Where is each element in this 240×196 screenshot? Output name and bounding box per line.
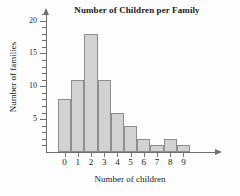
y-axis-minor-tick xyxy=(42,145,46,146)
y-axis-minor-tick xyxy=(42,80,46,81)
y-axis-minor-tick xyxy=(42,93,46,94)
histogram-bar xyxy=(137,139,150,152)
histogram-figure: Number of Children per Family 5101520 01… xyxy=(0,0,240,196)
histogram-bar xyxy=(150,145,163,152)
y-axis-minor-tick xyxy=(42,34,46,35)
plot-area: 5101520 0123456789 xyxy=(46,14,218,153)
y-axis-minor-tick xyxy=(42,27,46,28)
y-axis-minor-tick xyxy=(42,67,46,68)
y-axis-tick-label: 10 xyxy=(29,80,37,91)
y-axis-major-tick: 20 xyxy=(40,21,46,22)
y-axis-tick-label: 5 xyxy=(33,113,37,124)
y-axis-minor-tick xyxy=(42,106,46,107)
y-axis-minor-tick xyxy=(42,126,46,127)
y-axis-minor-tick xyxy=(42,132,46,133)
x-axis-tick-label: 9 xyxy=(175,157,191,167)
x-axis-arrow-icon xyxy=(215,149,222,155)
histogram-bar xyxy=(84,34,97,152)
y-axis-minor-tick xyxy=(42,99,46,100)
histogram-bar xyxy=(124,126,137,152)
y-axis-minor-tick xyxy=(42,47,46,48)
y-axis-minor-tick xyxy=(42,73,46,74)
y-axis-major-tick: 15 xyxy=(40,53,46,54)
y-axis-minor-tick xyxy=(42,113,46,114)
y-axis-major-tick: 10 xyxy=(40,86,46,87)
y-axis-minor-tick xyxy=(42,60,46,61)
histogram-bar xyxy=(71,80,84,152)
x-axis-title: Number of children xyxy=(40,174,220,184)
y-axis-tick-label: 15 xyxy=(29,47,37,58)
y-axis-tick-label: 20 xyxy=(29,15,37,26)
y-axis-minor-tick xyxy=(42,139,46,140)
y-axis-line xyxy=(46,14,47,153)
histogram-bar xyxy=(111,113,124,152)
y-axis-minor-tick xyxy=(42,40,46,41)
y-axis-major-tick: 5 xyxy=(40,119,46,120)
histogram-bar xyxy=(164,139,177,152)
histogram-bar xyxy=(98,80,111,152)
histogram-bar xyxy=(177,145,190,152)
y-axis-title: Number of families xyxy=(8,17,18,137)
y-axis-minor-tick xyxy=(42,14,46,15)
histogram-bar xyxy=(58,99,71,152)
